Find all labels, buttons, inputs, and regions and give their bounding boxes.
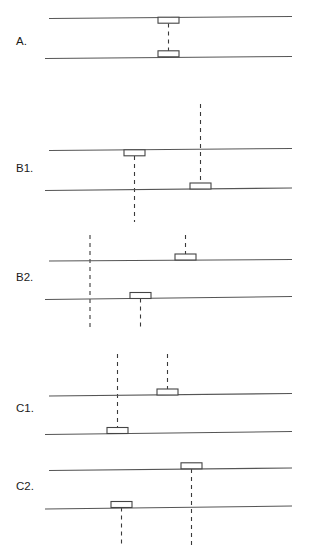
b1-box-upper bbox=[124, 150, 145, 156]
a-box-upper bbox=[158, 17, 179, 23]
c2-box-upper bbox=[181, 463, 202, 469]
panel-label-b1: B1. bbox=[16, 162, 33, 174]
panel-label-a: A. bbox=[16, 35, 27, 47]
c1-box-upper bbox=[157, 389, 178, 395]
panel-label-b2: B2. bbox=[16, 271, 33, 283]
figure-background bbox=[0, 0, 314, 558]
a-box-lower bbox=[158, 51, 179, 57]
diagram-canvas: A.B1.B2.C1.C2. bbox=[0, 0, 314, 558]
diagram-figure: A.B1.B2.C1.C2. bbox=[0, 0, 314, 558]
b2-box-lower bbox=[130, 293, 151, 299]
panel-label-c2: C2. bbox=[16, 480, 34, 492]
c2-box-lower bbox=[111, 502, 132, 508]
b2-box-upper bbox=[175, 254, 196, 260]
c1-box-lower bbox=[107, 428, 128, 434]
panel-label-c1: C1. bbox=[16, 402, 34, 414]
b1-box-lower bbox=[190, 183, 211, 189]
